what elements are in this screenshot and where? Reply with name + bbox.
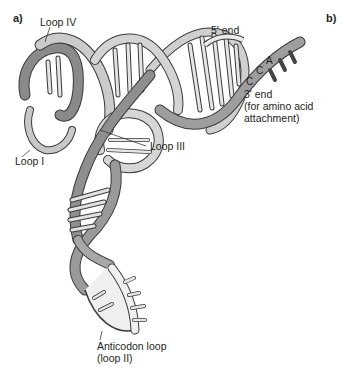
base-c-2: C [256, 65, 263, 76]
anticodon-loop [85, 265, 145, 331]
label-loop-i: Loop I [15, 155, 44, 167]
trna-ribbon-diagram [0, 0, 342, 377]
label-3-prime-end: 3' end [244, 88, 272, 100]
label-5-prime-end: 5' end [211, 24, 239, 36]
label-loop-ii: (loop II) [97, 352, 133, 364]
label-3-prime-note-2: attachment) [244, 112, 299, 124]
label-3-prime-note-1: (for amino acid [244, 100, 313, 112]
label-loop-iv: Loop IV [40, 16, 76, 28]
label-anticodon-loop: Anticodon loop [97, 340, 166, 352]
label-loop-iii: Loop III [150, 140, 185, 152]
base-c-1: C [246, 76, 253, 87]
base-a: A [266, 55, 273, 66]
